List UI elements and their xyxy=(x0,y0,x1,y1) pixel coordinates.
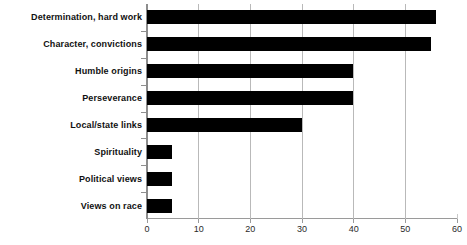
bar-character-convictions xyxy=(147,37,431,51)
category-label-row: Political views xyxy=(0,165,146,192)
x-axis-tick-label: 30 xyxy=(297,224,307,234)
bar-row xyxy=(147,31,457,58)
category-label: Determination, hard work xyxy=(6,12,146,22)
bar-row xyxy=(147,192,457,219)
bar-row xyxy=(147,112,457,139)
bar-row xyxy=(147,138,457,165)
category-label: Character, convictions xyxy=(6,39,146,49)
bar-row xyxy=(147,4,457,31)
category-label-row: Humble origins xyxy=(0,58,146,85)
x-axis-tick xyxy=(198,219,199,223)
category-label: Local/state links xyxy=(6,120,146,130)
bar-row xyxy=(147,85,457,112)
x-axis-tick xyxy=(147,219,148,223)
category-label-row: Local/state links xyxy=(0,112,146,139)
category-label: Perseverance xyxy=(6,93,146,103)
bar-political-views xyxy=(147,172,173,186)
x-axis-tick-label: 0 xyxy=(144,224,149,234)
category-label-row: Character, convictions xyxy=(0,31,146,58)
bar-local-state-links xyxy=(147,118,302,132)
bar-perseverance xyxy=(147,91,354,105)
category-label-row: Perseverance xyxy=(0,85,146,112)
x-axis-tick-label: 10 xyxy=(194,224,204,234)
plot-area xyxy=(147,4,457,219)
category-label: Views on race xyxy=(6,201,146,211)
category-label: Humble origins xyxy=(6,66,146,76)
clipped-caption xyxy=(0,239,467,245)
x-axis-tick xyxy=(405,219,406,223)
x-axis-tick-label: 50 xyxy=(400,224,410,234)
category-label-row: Views on race xyxy=(0,192,146,219)
x-axis-tick xyxy=(457,219,458,223)
category-label: Spirituality xyxy=(6,147,146,157)
category-label-row: Spirituality xyxy=(0,138,146,165)
bar-views-on-race xyxy=(147,199,173,213)
x-axis-tick-label: 60 xyxy=(452,224,462,234)
x-axis-tick xyxy=(353,219,354,223)
x-axis-tick xyxy=(250,219,251,223)
bar-spirituality xyxy=(147,145,173,159)
category-label: Political views xyxy=(6,174,146,184)
x-axis-tick-label: 40 xyxy=(349,224,359,234)
x-axis-tick xyxy=(302,219,303,223)
horizontal-bar-chart: Determination, hard work Character, conv… xyxy=(0,0,467,245)
bar-determination-hard-work xyxy=(147,10,436,24)
category-axis-labels: Determination, hard work Character, conv… xyxy=(0,4,146,219)
bar-humble-origins xyxy=(147,64,354,78)
category-label-row: Determination, hard work xyxy=(0,4,146,31)
bar-row xyxy=(147,165,457,192)
x-axis-tick-label: 20 xyxy=(245,224,255,234)
bar-row xyxy=(147,58,457,85)
